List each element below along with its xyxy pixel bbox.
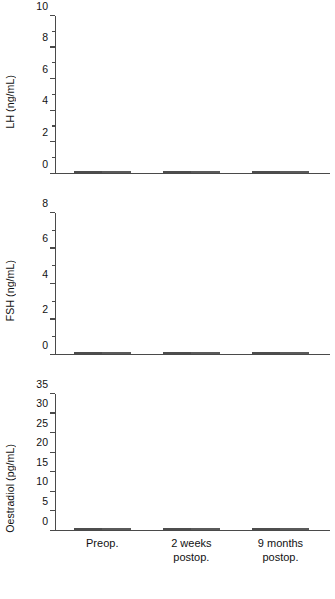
y-tick-label: 6 xyxy=(42,233,48,244)
y-tick-label: 6 xyxy=(42,63,48,74)
x-axis-line-lh xyxy=(55,173,330,174)
y-axis-label-fsh: FSH (ng/mL) xyxy=(2,205,18,377)
x-axis-line-fsh xyxy=(55,354,330,355)
y-tick-label: 0 xyxy=(42,515,48,526)
y-axis-label-lh-text: LH (ng/mL) xyxy=(4,75,16,129)
bar-group xyxy=(252,528,309,530)
bar-group xyxy=(252,171,309,173)
plot-area-oestradiol: 05101520253035 xyxy=(55,394,325,531)
y-tick-label: 8 xyxy=(42,197,48,208)
bar-gray xyxy=(252,171,280,173)
hormone-levels-figure: LH (ng/mL) 0246810 FSH (ng/mL) 02468 Oes… xyxy=(0,0,335,599)
bar-gray xyxy=(74,352,102,354)
bar-gray xyxy=(252,352,280,354)
panel-fsh: FSH (ng/mL) 02468 xyxy=(0,205,335,377)
plot-area-lh: 0246810 xyxy=(55,16,325,174)
y-tick-label: 0 xyxy=(42,158,48,169)
bar-group xyxy=(163,528,220,530)
y-axis-label-fsh-text: FSH (ng/mL) xyxy=(4,260,16,321)
y-tick-label: 15 xyxy=(36,457,48,468)
y-tick-label: 5 xyxy=(42,496,48,507)
y-tick-major xyxy=(50,354,55,355)
bar-group xyxy=(163,352,220,354)
bar-group xyxy=(252,352,309,354)
y-tick-label: 2 xyxy=(42,304,48,315)
bar-gray xyxy=(252,528,280,530)
y-tick-label: 25 xyxy=(36,417,48,428)
bar-white xyxy=(191,528,219,530)
x-axis-label: 9 months postop. xyxy=(232,537,329,564)
bar-group xyxy=(74,528,131,530)
bar-white xyxy=(102,171,130,173)
bar-white xyxy=(280,528,308,530)
bar-group-container-fsh xyxy=(55,213,325,354)
bar-gray xyxy=(163,528,191,530)
bar-group xyxy=(163,171,220,173)
y-tick-label: 2 xyxy=(42,127,48,138)
bar-group-container-oestradiol xyxy=(55,394,325,530)
y-tick-major xyxy=(50,173,55,174)
bar-white xyxy=(102,352,130,354)
bar-white xyxy=(280,171,308,173)
plot-area-fsh: 02468 xyxy=(55,213,325,355)
x-axis-label: 2 weeks postop. xyxy=(143,537,240,564)
y-tick-label: 10 xyxy=(36,0,48,11)
y-tick-label: 4 xyxy=(42,268,48,279)
y-axis-label-oestradiol: Oestradiol (pg/mL) xyxy=(2,386,18,591)
bar-white xyxy=(102,528,130,530)
bar-white xyxy=(191,171,219,173)
y-tick-label: 20 xyxy=(36,437,48,448)
y-axis-label-lh: LH (ng/mL) xyxy=(2,8,18,196)
y-axis-label-oestradiol-text: Oestradiol (pg/mL) xyxy=(4,444,16,533)
bar-gray xyxy=(163,352,191,354)
bar-white xyxy=(280,352,308,354)
x-axis-label: Preop. xyxy=(54,537,151,551)
y-tick-major xyxy=(50,530,55,531)
panel-lh: LH (ng/mL) 0246810 xyxy=(0,8,335,196)
y-tick-label: 35 xyxy=(36,378,48,389)
panel-oestradiol: Oestradiol (pg/mL) 05101520253035 Preop.… xyxy=(0,386,335,591)
bar-white xyxy=(191,352,219,354)
y-tick-label: 8 xyxy=(42,32,48,43)
y-tick-label: 30 xyxy=(36,398,48,409)
y-tick-label: 4 xyxy=(42,95,48,106)
y-tick-label: 0 xyxy=(42,339,48,350)
bar-group-container-lh xyxy=(55,16,325,173)
x-axis-labels: Preop.2 weeks postop.9 months postop. xyxy=(55,537,325,585)
bar-gray xyxy=(74,171,102,173)
bar-group xyxy=(74,352,131,354)
bar-gray xyxy=(163,171,191,173)
bar-gray xyxy=(74,528,102,530)
bar-group xyxy=(74,171,131,173)
y-tick-label: 10 xyxy=(36,476,48,487)
x-axis-line-oestradiol xyxy=(55,530,330,531)
